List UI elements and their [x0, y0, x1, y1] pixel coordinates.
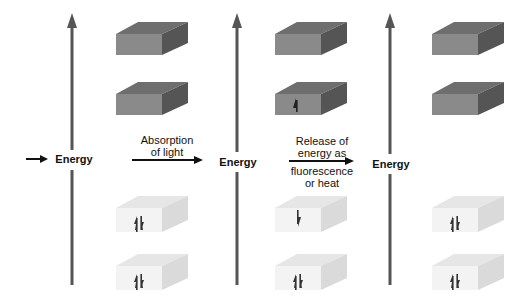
release-label-bottom: fluorescence or heat [284, 165, 360, 189]
energy-axis-1 [67, 13, 77, 285]
state-3-orbitals [432, 22, 504, 290]
absorption-label: Absorption of light [132, 134, 202, 158]
energy-axis-3 [385, 13, 395, 285]
energy-label-1: Energy [54, 153, 94, 165]
incoming-arrow [26, 155, 48, 163]
energy-label-2: Energy [216, 156, 260, 168]
energy-axis-2 [232, 13, 242, 285]
release-label-top: Release of energy as [284, 135, 360, 159]
energy-label-3: Energy [369, 158, 413, 170]
